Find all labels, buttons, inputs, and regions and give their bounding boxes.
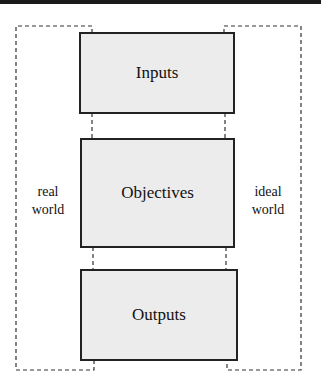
objectives-label: Objectives xyxy=(81,183,234,203)
real-world-line2: world xyxy=(20,201,76,219)
outputs-label: Outputs xyxy=(81,305,237,325)
inputs-label: Inputs xyxy=(80,63,234,83)
real-world-line1: real xyxy=(20,183,76,201)
ideal-world-line1: ideal xyxy=(240,183,296,201)
ideal-world-line2: world xyxy=(240,201,296,219)
real-world-label: real world xyxy=(20,183,76,219)
ideal-world-label: ideal world xyxy=(240,183,296,219)
